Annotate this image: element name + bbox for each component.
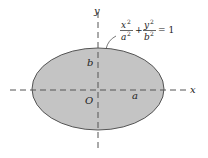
eq-term1-denominator-exp: 2 [127,30,131,37]
semi-minor-label: b [87,57,93,68]
equation-leader-line [106,36,116,49]
eq-term1-numerator-exp: 2 [127,18,131,25]
ellipse-equation: x 2 a 2 + y 2 b 2 = 1 [120,18,174,42]
y-axis-label: y [93,5,100,16]
eq-term2-denominator-exp: 2 [150,30,154,37]
semi-major-label: a [132,90,138,101]
eq-plus: + [135,25,143,35]
eq-term2-numerator: y [143,20,150,30]
ellipse-diagram: y x O a b x 2 a 2 + y 2 b 2 = 1 [0,0,208,158]
eq-term1-numerator: x [121,20,126,30]
eq-term2-numerator-exp: 2 [150,18,154,25]
origin-label: O [85,95,93,106]
eq-term1-denominator: a [121,32,126,42]
eq-equals-one: = 1 [158,25,174,35]
x-axis-label: x [190,84,196,95]
